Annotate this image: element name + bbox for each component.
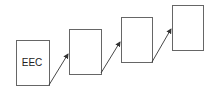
box-1-label: EEC (22, 57, 43, 68)
box-4 (173, 6, 204, 51)
box-3 (122, 18, 153, 63)
arrow-2 (101, 42, 120, 73)
box-1: EEC (17, 41, 50, 86)
arrow-3 (152, 29, 171, 62)
arrow-1 (49, 54, 68, 85)
box-2 (70, 30, 102, 75)
staircase-diagram: EEC (0, 0, 213, 86)
